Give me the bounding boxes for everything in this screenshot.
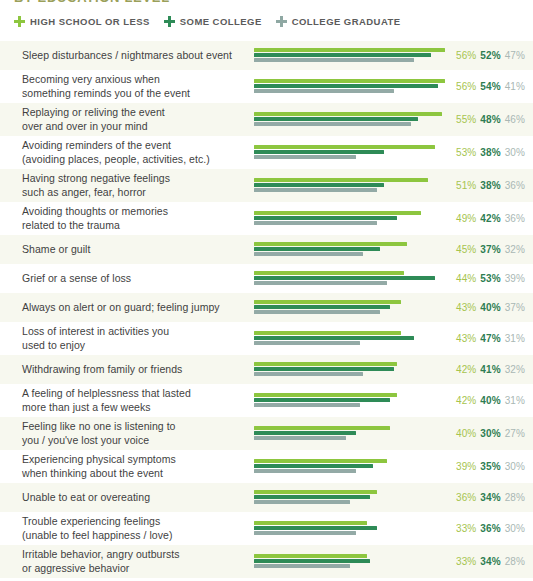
chart-title-clipped: BY EDUCATION LEVEL (14, 0, 170, 5)
value-labels: 55%48%46% (446, 114, 529, 125)
row-label: A feeling of helplessness that lasted mo… (22, 387, 254, 414)
value-labels: 44%53%39% (446, 273, 529, 284)
legend-item-2[interactable]: SOME COLLEGE (164, 16, 262, 27)
bar-group (254, 300, 446, 315)
value-college-graduate: 37% (505, 302, 525, 313)
value-labels: 33%34%28% (446, 556, 529, 567)
value-labels: 39%35%30% (446, 461, 529, 472)
bar-college-graduate (254, 341, 360, 345)
bar-college-graduate (254, 188, 377, 192)
bar-some-college (254, 183, 384, 187)
value-high-school-or-less: 53% (456, 147, 476, 158)
bar-group (254, 178, 446, 193)
value-some-college: 52% (480, 50, 500, 61)
value-college-graduate: 39% (505, 273, 525, 284)
bar-college-graduate (254, 122, 411, 126)
chart-row: Becoming very anxious when something rem… (0, 70, 533, 103)
value-labels: 56%52%47% (446, 50, 529, 61)
chart-row: Always on alert or on guard; feeling jum… (0, 293, 533, 322)
bar-college-graduate (254, 500, 350, 504)
value-high-school-or-less: 44% (456, 273, 476, 284)
row-label: Sleep disturbances / nightmares about ev… (22, 49, 254, 63)
bar-some-college (254, 464, 373, 468)
value-some-college: 38% (480, 147, 500, 158)
bar-college-graduate (254, 372, 363, 376)
bar-college-graduate (254, 89, 394, 93)
value-some-college: 48% (480, 114, 500, 125)
value-high-school-or-less: 33% (456, 523, 476, 534)
bar-some-college (254, 276, 435, 280)
bar-high-school-or-less (254, 211, 421, 215)
value-some-college: 53% (480, 273, 500, 284)
row-label: Avoiding thoughts or memories related to… (22, 205, 254, 232)
row-label: Shame or guilt (22, 243, 254, 257)
value-some-college: 34% (480, 556, 500, 567)
row-label: Always on alert or on guard; feeling jum… (22, 301, 254, 315)
legend-item-3[interactable]: COLLEGE GRADUATE (276, 16, 401, 27)
value-labels: 43%47%31% (446, 333, 529, 344)
bar-college-graduate (254, 58, 414, 62)
value-some-college: 38% (480, 180, 500, 191)
bar-group (254, 112, 446, 127)
bar-some-college (254, 150, 384, 154)
value-college-graduate: 32% (505, 244, 525, 255)
value-high-school-or-less: 56% (456, 50, 476, 61)
bar-some-college (254, 367, 394, 371)
bar-high-school-or-less (254, 79, 445, 83)
bar-group (254, 242, 446, 257)
bar-high-school-or-less (254, 178, 428, 182)
bar-high-school-or-less (254, 300, 401, 304)
value-high-school-or-less: 40% (456, 428, 476, 439)
value-high-school-or-less: 42% (456, 395, 476, 406)
chart-row: Shame or guilt45%37%32% (0, 235, 533, 264)
bar-group (254, 362, 446, 377)
bar-some-college (254, 431, 356, 435)
bar-group (254, 554, 446, 569)
value-high-school-or-less: 42% (456, 364, 476, 375)
bar-high-school-or-less (254, 242, 407, 246)
row-label: Unable to eat or overeating (22, 491, 254, 505)
bar-group (254, 331, 446, 346)
chart-row: Unable to eat or overeating36%34%28% (0, 483, 533, 512)
value-some-college: 37% (480, 244, 500, 255)
bar-high-school-or-less (254, 521, 367, 525)
bar-high-school-or-less (254, 362, 397, 366)
bar-college-graduate (254, 469, 356, 473)
legend-item-1[interactable]: HIGH SCHOOL OR LESS (14, 16, 150, 27)
bar-high-school-or-less (254, 393, 397, 397)
value-labels: 33%36%30% (446, 523, 529, 534)
bar-high-school-or-less (254, 490, 377, 494)
value-labels: 42%41%32% (446, 364, 529, 375)
value-college-graduate: 31% (505, 333, 525, 344)
bar-high-school-or-less (254, 145, 435, 149)
plus-icon (14, 16, 25, 27)
value-some-college: 47% (480, 333, 500, 344)
bar-high-school-or-less (254, 459, 387, 463)
chart-row: Having strong negative feelings such as … (0, 169, 533, 202)
chart-row: Feeling like no one is listening to you … (0, 417, 533, 450)
value-some-college: 36% (480, 523, 500, 534)
bar-high-school-or-less (254, 554, 367, 558)
value-high-school-or-less: 36% (456, 492, 476, 503)
bar-group (254, 211, 446, 226)
row-label: Trouble experiencing feelings (unable to… (22, 515, 254, 542)
value-college-graduate: 30% (505, 523, 525, 534)
row-label: Replaying or reliving the event over and… (22, 106, 254, 133)
value-college-graduate: 28% (505, 556, 525, 567)
legend-item-label: HIGH SCHOOL OR LESS (30, 16, 150, 27)
row-label: Experiencing physical symptoms when thin… (22, 453, 254, 480)
legend-item-label: COLLEGE GRADUATE (292, 16, 401, 27)
value-labels: 53%38%30% (446, 147, 529, 158)
bar-some-college (254, 84, 438, 88)
page-title: BY EDUCATION LEVEL (14, 0, 170, 5)
bar-group (254, 393, 446, 408)
bar-some-college (254, 398, 390, 402)
chart-row: Grief or a sense of loss44%53%39% (0, 264, 533, 293)
chart-row: Loss of interest in activities you used … (0, 322, 533, 355)
value-college-graduate: 31% (505, 395, 525, 406)
row-label: Grief or a sense of loss (22, 272, 254, 286)
chart-row: Irritable behavior, angry outbursts or a… (0, 545, 533, 578)
value-labels: 40%30%27% (446, 428, 529, 439)
bar-group (254, 426, 446, 441)
value-some-college: 40% (480, 395, 500, 406)
